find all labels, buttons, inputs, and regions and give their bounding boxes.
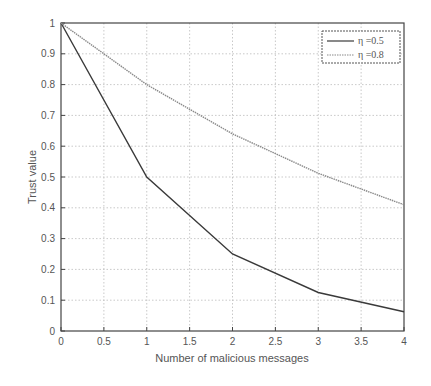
grid-lines [61, 23, 404, 331]
x-axis-ticks: 00.511.522.533.54 [58, 327, 407, 347]
x-tick-label: 0 [58, 336, 64, 347]
legend: η =0.5 η =0.8 [322, 31, 400, 63]
y-axis-label: Trust value [26, 150, 38, 204]
y-tick-label: 0.3 [41, 233, 55, 244]
y-tick-label: 0.4 [41, 202, 55, 213]
x-axis-label: Number of malicious messages [155, 352, 309, 364]
line-chart: 00.511.522.533.54 00.10.20.30.40.50.60.7… [0, 0, 431, 386]
x-tick-label: 1 [144, 336, 150, 347]
x-tick-label: 0.5 [97, 336, 111, 347]
legend-label-0: η =0.5 [358, 35, 384, 46]
y-tick-label: 0.6 [41, 141, 55, 152]
y-tick-label: 0.8 [41, 79, 55, 90]
x-tick-label: 3.5 [354, 336, 368, 347]
x-tick-label: 2 [230, 336, 236, 347]
y-tick-label: 0.9 [41, 48, 55, 59]
y-tick-label: 0.7 [41, 110, 55, 121]
y-tick-label: 0.2 [41, 264, 55, 275]
y-tick-label: 1 [49, 18, 55, 29]
x-tick-label: 3 [315, 336, 321, 347]
y-tick-label: 0 [49, 326, 55, 337]
x-tick-label: 4 [401, 336, 407, 347]
legend-label-1: η =0.8 [358, 49, 384, 60]
y-tick-label: 0.5 [41, 172, 55, 183]
x-tick-label: 2.5 [268, 336, 282, 347]
x-tick-label: 1.5 [183, 336, 197, 347]
y-tick-label: 0.1 [41, 295, 55, 306]
